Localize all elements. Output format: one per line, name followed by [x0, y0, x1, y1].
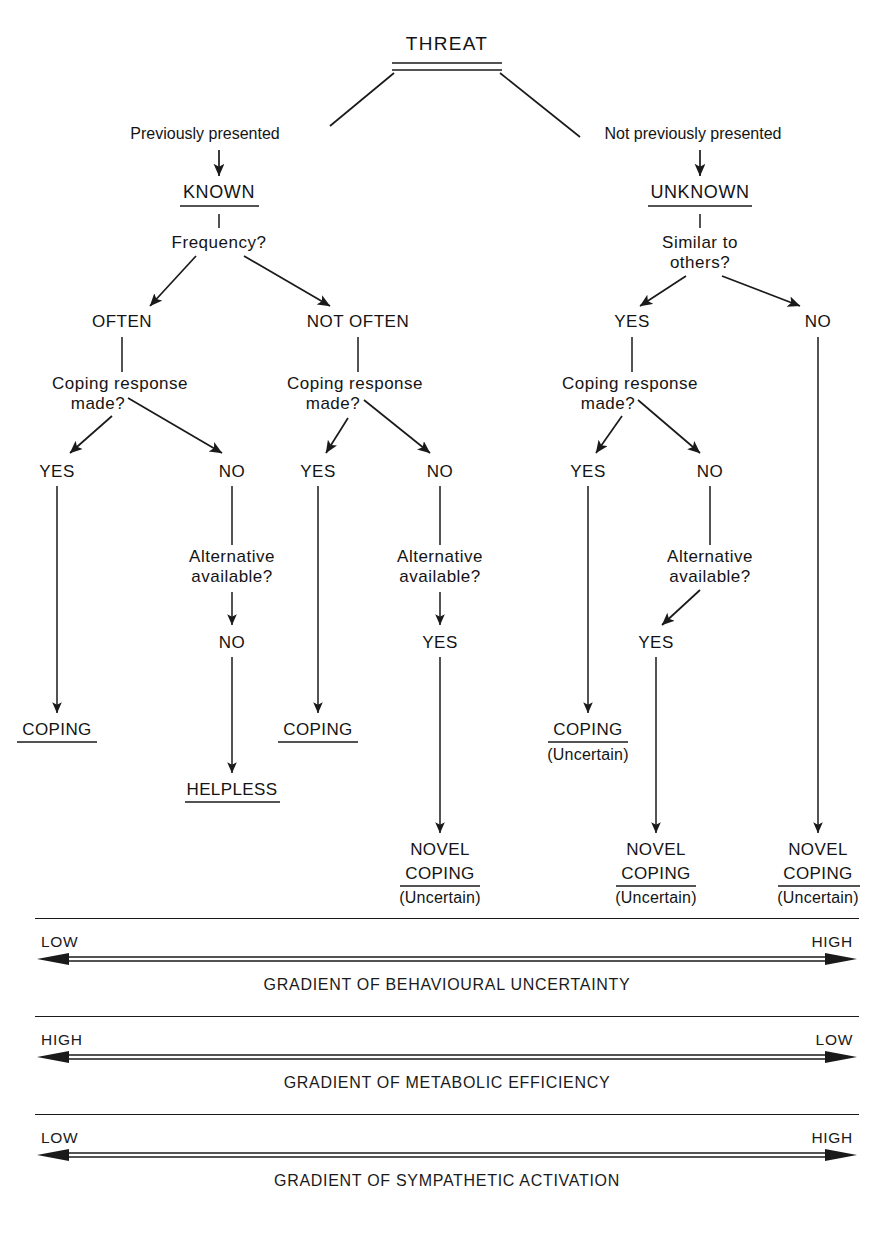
answer-coping2-no: NO	[427, 462, 454, 481]
question-alternative-1-line2: available?	[191, 567, 273, 586]
outcome-coping-3-uncertain: (Uncertain)	[547, 746, 628, 763]
outcome-novel-1-line2: COPING	[405, 864, 474, 883]
gradient-3-endpoints: LOW HIGH	[35, 1115, 859, 1145]
question-alternative-3-line1: Alternative	[667, 547, 753, 566]
edge-coping1-no	[128, 398, 222, 453]
edge-coping3-yes	[596, 416, 622, 453]
question-coping-response-3-line2: made?	[581, 394, 635, 413]
question-alternative-3-line2: available?	[669, 567, 751, 586]
gradient-1-left-end: LOW	[41, 934, 78, 950]
threat-appraisal-figure: THREAT Previously presented KNOWN Freque…	[0, 0, 894, 1233]
gradient-1-double-arrow	[35, 949, 859, 969]
gradient-3-left-end: LOW	[41, 1130, 78, 1146]
outcome-novel-3-line1: NOVEL	[788, 840, 848, 859]
question-frequency: Frequency?	[172, 233, 267, 252]
gradient-1-endpoints: LOW HIGH	[35, 919, 859, 949]
option-similar-yes: YES	[614, 312, 650, 331]
edge-frequency-often	[150, 256, 196, 306]
outcome-novel-2-line1: NOVEL	[626, 840, 686, 859]
answer-coping3-yes: YES	[570, 462, 606, 481]
question-coping-response-2-line2: made?	[306, 394, 360, 413]
outcome-novel-2-uncertain: (Uncertain)	[615, 889, 696, 906]
answer-alternative-3-yes: YES	[638, 633, 674, 652]
edge-root-to-left	[330, 73, 394, 126]
question-similar-line1: Similar to	[662, 233, 738, 252]
state-known: KNOWN	[183, 182, 255, 202]
question-coping-response-2-line1: Coping response	[287, 374, 423, 393]
outcome-coping-2: COPING	[283, 720, 352, 739]
edge-alt3-to-answer	[662, 590, 700, 625]
gradient-1-caption: GRADIENT OF BEHAVIOURAL UNCERTAINTY	[35, 976, 859, 994]
answer-coping1-no: NO	[219, 462, 246, 481]
outcome-coping-3: COPING	[553, 720, 622, 739]
question-coping-response-3-line1: Coping response	[562, 374, 698, 393]
answer-coping3-no: NO	[697, 462, 724, 481]
question-coping-response-1-line1: Coping response	[52, 374, 188, 393]
question-alternative-2-line2: available?	[399, 567, 481, 586]
gradient-2-right-end: LOW	[816, 1032, 853, 1048]
answer-alternative-1-no: NO	[219, 633, 246, 652]
question-alternative-1-line1: Alternative	[189, 547, 275, 566]
gradient-3-right-end: HIGH	[811, 1130, 853, 1146]
option-not-often: NOT OFTEN	[307, 312, 409, 331]
gradient-behavioural-uncertainty: LOW HIGH GRADIENT OF BEHAVIOURAL UNCERTA…	[35, 919, 859, 1016]
answer-coping1-yes: YES	[39, 462, 75, 481]
question-similar-line2: others?	[670, 253, 730, 272]
outcome-novel-3-line2: COPING	[783, 864, 852, 883]
outcome-novel-1-line1: NOVEL	[410, 840, 470, 859]
gradient-2-double-arrow	[35, 1047, 859, 1067]
gradient-metabolic-efficiency: HIGH LOW GRADIENT OF METABOLIC EFFICIENC…	[35, 1017, 859, 1114]
edge-similar-no	[722, 276, 800, 306]
outcome-coping-1: COPING	[22, 720, 91, 739]
edge-coping1-yes	[70, 416, 112, 453]
answer-alternative-2-yes: YES	[422, 633, 458, 652]
gradient-2-caption: GRADIENT OF METABOLIC EFFICIENCY	[35, 1074, 859, 1092]
gradient-3-caption: GRADIENT OF SYMPATHETIC ACTIVATION	[35, 1172, 859, 1190]
option-similar-no: NO	[805, 312, 832, 331]
gradient-2-left-end: HIGH	[41, 1032, 83, 1048]
gradient-sympathetic-activation: LOW HIGH GRADIENT OF SYMPATHETIC ACTIVAT…	[35, 1115, 859, 1212]
question-alternative-2-line1: Alternative	[397, 547, 483, 566]
gradient-3-double-arrow	[35, 1145, 859, 1165]
outcome-novel-3-uncertain: (Uncertain)	[777, 889, 858, 906]
state-unknown: UNKNOWN	[650, 182, 749, 202]
edge-similar-yes	[640, 276, 686, 306]
question-coping-response-1-line2: made?	[71, 394, 125, 413]
gradient-scales: LOW HIGH GRADIENT OF BEHAVIOURAL UNCERTA…	[0, 918, 894, 1233]
option-often: OFTEN	[92, 312, 152, 331]
decision-tree-diagram: THREAT Previously presented KNOWN Freque…	[0, 0, 894, 918]
outcome-helpless: HELPLESS	[186, 780, 277, 799]
edge-frequency-not-often	[244, 256, 330, 306]
edge-coping3-no	[638, 400, 700, 453]
root-label: THREAT	[406, 33, 488, 54]
answer-coping2-yes: YES	[300, 462, 336, 481]
edge-label-previously-presented: Previously presented	[130, 125, 279, 142]
edge-coping2-yes	[326, 418, 348, 453]
outcome-novel-1-uncertain: (Uncertain)	[399, 889, 480, 906]
edge-root-to-right	[500, 73, 580, 137]
outcome-novel-2-line2: COPING	[621, 864, 690, 883]
edge-coping2-no	[364, 400, 430, 453]
gradient-2-endpoints: HIGH LOW	[35, 1017, 859, 1047]
gradient-1-right-end: HIGH	[811, 934, 853, 950]
edge-label-not-previously-presented: Not previously presented	[605, 125, 782, 142]
